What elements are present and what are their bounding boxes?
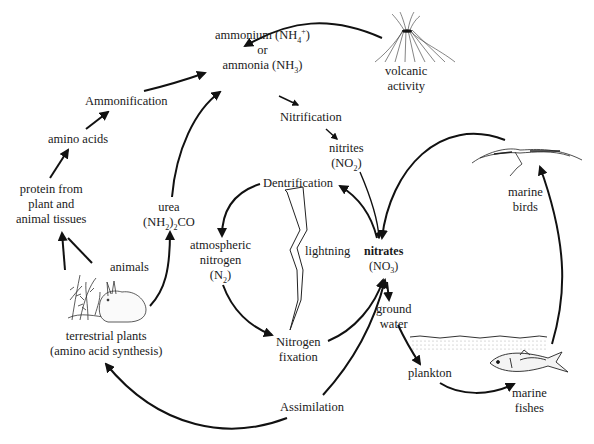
ammonium-subscript: 4 bbox=[297, 36, 301, 45]
ground-water-node: ground water bbox=[376, 302, 411, 332]
rabbit-plants-icon bbox=[68, 275, 146, 322]
arrow-nitrates-to-dentrification bbox=[340, 186, 377, 238]
fixation-line1: Nitrogen bbox=[276, 335, 320, 350]
arrow-plants-to-protein bbox=[68, 238, 92, 263]
marine-birds-node: marine birds bbox=[508, 185, 543, 215]
protein-line3: animal tissues bbox=[16, 212, 86, 227]
plankton-node: plankton bbox=[408, 366, 452, 381]
arrow-nitrates-to-groundwater bbox=[387, 282, 389, 300]
urea-line1: urea bbox=[143, 200, 195, 215]
nitrates-node: nitrates (NO3) bbox=[364, 244, 403, 274]
protein-line2: plant and bbox=[16, 197, 86, 212]
amino-acids-node: amino acids bbox=[48, 132, 108, 147]
volcanic-line2: activity bbox=[385, 79, 427, 94]
arrow-fishes-to-birds bbox=[540, 167, 562, 344]
nitrites-close: ) bbox=[357, 156, 361, 170]
marine-fishes-line2: fishes bbox=[512, 401, 547, 416]
nitrogen-fixation-node: Nitrogen fixation bbox=[276, 335, 320, 365]
atmospheric-line2: nitrogen bbox=[190, 253, 251, 268]
arrow-atmospheric-to-fixation bbox=[223, 285, 272, 335]
dentrification-node: Dentrification bbox=[263, 176, 333, 191]
volcanic-line1: volcanic bbox=[385, 64, 427, 79]
urea-formula-a: (NH bbox=[143, 215, 165, 229]
animals-label: animals bbox=[110, 260, 149, 275]
arrow-animals-to-urea bbox=[150, 232, 170, 306]
arrow-ammonification-to-ammonium bbox=[144, 73, 205, 91]
n2-close: ) bbox=[227, 268, 231, 282]
water-surface-icon bbox=[410, 336, 547, 350]
ammonification-node: Ammonification bbox=[85, 94, 168, 109]
nitrogen-cycle-diagram: ammonium (NH4+) or ammonia (NH3) volcani… bbox=[0, 0, 594, 444]
ammonium-node: ammonium (NH4+) or ammonia (NH3) bbox=[215, 28, 310, 73]
lightning-label: lightning bbox=[305, 244, 350, 259]
nitrites-node: nitrites (NO2) bbox=[329, 141, 364, 171]
fish-icon bbox=[490, 350, 568, 372]
arrow-urea-to-ammonium bbox=[172, 92, 220, 197]
urea-node: urea (NH2)2CO bbox=[143, 200, 195, 230]
ammonium-close: ) bbox=[306, 28, 310, 42]
arrow-assimilation-to-plants bbox=[106, 364, 287, 429]
assimilation-node: Assimilation bbox=[280, 400, 344, 415]
arrow-birds-to-nitrates bbox=[382, 134, 505, 238]
terrestrial-line2: (amino acid synthesis) bbox=[50, 344, 162, 359]
arrow-nitrification-to-nitrites bbox=[326, 129, 337, 139]
ammonia-text: ammonia (NH bbox=[222, 58, 294, 72]
lightning-bolt-icon bbox=[285, 187, 307, 330]
nitrates-formula: (NO bbox=[369, 259, 390, 273]
ground-water-line2: water bbox=[376, 317, 411, 332]
nitrates-close: ) bbox=[394, 259, 398, 273]
seabird-icon bbox=[472, 149, 582, 176]
nitrites-formula: (NO bbox=[331, 156, 353, 170]
arrow-animals-to-protein bbox=[62, 233, 65, 270]
nitrification-node: Nitrification bbox=[280, 110, 342, 125]
volcano-icon bbox=[375, 12, 455, 62]
protein-node: protein from plant and animal tissues bbox=[16, 182, 86, 227]
marine-birds-line1: marine bbox=[508, 185, 543, 200]
marine-birds-line2: birds bbox=[508, 200, 543, 215]
arrow-dentrification-to-atmospheric bbox=[222, 184, 260, 236]
urea-formula-c: CO bbox=[177, 215, 194, 229]
volcanic-activity-node: volcanic activity bbox=[385, 64, 427, 94]
nitrites-line1: nitrites bbox=[329, 141, 364, 156]
fixation-line2: fixation bbox=[276, 350, 320, 365]
protein-line1: protein from bbox=[16, 182, 86, 197]
ammonia-close: ) bbox=[298, 58, 302, 72]
terrestrial-line1: terrestrial plants bbox=[50, 329, 162, 344]
ground-water-line1: ground bbox=[376, 302, 411, 317]
n2-formula: (N bbox=[210, 268, 223, 282]
ammonium-text: ammonium (NH bbox=[215, 28, 297, 42]
arrow-nitrites-to-nitrates bbox=[360, 172, 379, 238]
arrow-ammonium-to-nitrification bbox=[279, 96, 298, 105]
nitrates-line1: nitrates bbox=[364, 244, 403, 259]
terrestrial-plants-node: terrestrial plants (amino acid synthesis… bbox=[50, 329, 162, 359]
arrow-amino-to-ammonification bbox=[86, 112, 108, 129]
atmospheric-nitrogen-node: atmospheric nitrogen (N2) bbox=[190, 238, 251, 283]
arrow-plankton-to-fishes bbox=[440, 383, 514, 393]
or-text: or bbox=[215, 43, 310, 58]
marine-fishes-line1: marine bbox=[512, 386, 547, 401]
atmospheric-line1: atmospheric bbox=[190, 238, 251, 253]
marine-fishes-node: marine fishes bbox=[512, 386, 547, 416]
arrow-protein-to-amino bbox=[50, 150, 68, 178]
